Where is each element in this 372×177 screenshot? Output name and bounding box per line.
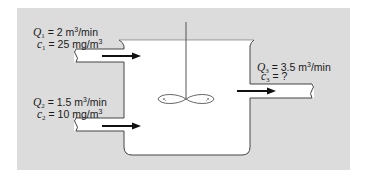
mixing-tank-diagram: Q1 = 2 m3/min c1 = 25 mg/m3 Q2 = 1.5 m3/… <box>0 0 372 177</box>
conc-value: = 10 mg/m <box>46 108 99 120</box>
inflow-2-conc-label: c2 = 10 mg/m3 <box>37 106 102 124</box>
inflow-1-conc-label: c1 = 25 mg/m3 <box>37 36 102 54</box>
outflow-3-conc-label: c3 = ? <box>261 71 287 86</box>
conc-value: = 25 mg/m <box>46 38 99 50</box>
superscript: 3 <box>98 108 102 115</box>
flow-unit: /min <box>311 61 331 73</box>
conc-value: = ? <box>270 70 288 82</box>
superscript: 3 <box>98 38 102 45</box>
